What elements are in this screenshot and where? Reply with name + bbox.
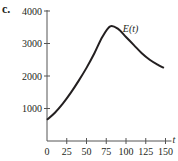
y-tick-label: 4000 — [22, 6, 42, 17]
curve-annotation: E(t) — [122, 23, 139, 35]
x-tick-label: 125 — [138, 146, 153, 157]
y-tick-label: 3000 — [22, 38, 42, 49]
x-tick-label: 100 — [119, 146, 134, 157]
line-chart: 10002000300040000255075100125150tE(t) — [0, 0, 178, 161]
x-tick-label: 75 — [101, 146, 111, 157]
y-tick-label: 2000 — [22, 71, 42, 82]
data-series-curve — [47, 26, 164, 120]
x-tick-label: 50 — [82, 146, 92, 157]
x-axis-label: t — [173, 134, 176, 145]
x-tick-label: 0 — [45, 146, 50, 157]
x-tick-label: 150 — [158, 146, 173, 157]
y-tick-label: 1000 — [22, 103, 42, 114]
x-tick-label: 25 — [62, 146, 72, 157]
